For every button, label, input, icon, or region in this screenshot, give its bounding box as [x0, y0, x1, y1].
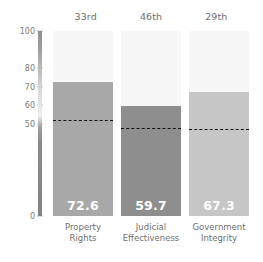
bar-value-label: 72.6: [53, 198, 113, 213]
category-label-line: Judicial: [121, 222, 181, 233]
bar-value-label: 59.7: [121, 198, 181, 213]
category-label-row: PropertyRightsJudicialEffectivenessGover…: [53, 222, 249, 256]
category-label-line: Government: [189, 222, 249, 233]
rank-label: 33rd: [53, 8, 118, 26]
bar: 67.3: [189, 92, 249, 217]
category-label-line: Rights: [53, 233, 113, 244]
rank-label-row: 33rd 46th 29th: [53, 8, 249, 26]
reference-line: [53, 120, 113, 121]
category-label-line: Property: [53, 222, 113, 233]
bar-column: 72.6: [53, 31, 113, 216]
bar: 59.7: [121, 106, 181, 216]
bar-column: 67.3: [189, 31, 249, 216]
category-label: GovernmentIntegrity: [189, 222, 249, 256]
category-label-line: Effectiveness: [121, 233, 181, 244]
bar-value-label: 67.3: [189, 198, 249, 213]
y-axis-tick-label: 100: [20, 27, 35, 36]
rank-label: 46th: [118, 8, 183, 26]
y-axis-tick-label: 70: [25, 82, 35, 91]
bar: 72.6: [53, 82, 113, 216]
category-label-line: Integrity: [189, 233, 249, 244]
rank-label: 29th: [184, 8, 249, 26]
bar-column: 59.7: [121, 31, 181, 216]
y-axis-tick-label: 0: [30, 212, 35, 221]
reference-line: [121, 128, 181, 129]
reference-line: [189, 129, 249, 130]
y-axis-gradient-bar: [38, 31, 42, 216]
y-axis-tick-label: 80: [25, 64, 35, 73]
category-label: PropertyRights: [53, 222, 113, 256]
category-label: JudicialEffectiveness: [121, 222, 181, 256]
plot-area: 72.659.767.3: [53, 31, 249, 216]
y-axis-tick-label: 60: [25, 101, 35, 110]
bar-chart: 33rd 46th 29th 100807060500 72.659.767.3…: [0, 0, 263, 262]
y-axis-tick-label: 50: [25, 119, 35, 128]
